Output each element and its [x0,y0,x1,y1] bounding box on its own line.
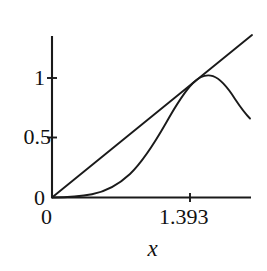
y-axis-tick-label-1: 1 [34,67,45,89]
straight-line-series [52,35,252,198]
x-axis-title: x [0,236,267,262]
y-axis-tick-label-0-5: 0.5 [24,126,52,148]
plot-figure: 1 0.5 0 0 1.393 x [0,0,267,271]
sigmoid-curve-series [52,75,250,197]
x-axis-tick-label-0: 0 [41,206,52,228]
x-axis-tick-label-1-393: 1.393 [159,206,209,228]
